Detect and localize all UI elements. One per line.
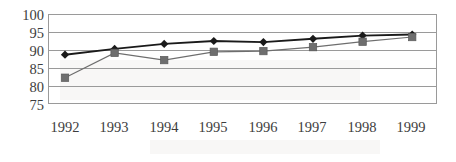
data-point-diamond [61, 51, 69, 59]
data-point-square [161, 56, 168, 63]
data-point-square [61, 74, 68, 81]
line-chart: 100 95 90 85 80 75 1992 1993 1994 1995 1… [0, 0, 456, 162]
data-point-diamond [259, 38, 267, 46]
data-point-square [111, 49, 118, 56]
series-layer [0, 0, 456, 162]
series-square [61, 33, 416, 81]
data-point-diamond [160, 40, 168, 48]
data-point-square [260, 47, 267, 54]
data-point-square [210, 48, 217, 55]
data-point-diamond [210, 37, 218, 45]
data-point-square [359, 38, 366, 45]
data-point-diamond [309, 35, 317, 43]
data-point-square [309, 43, 316, 50]
data-point-square [409, 33, 416, 40]
